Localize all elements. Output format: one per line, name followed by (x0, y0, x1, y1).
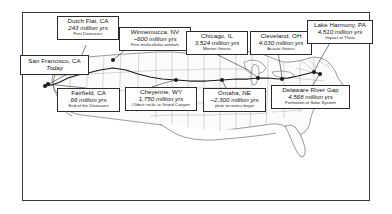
marker-dot-cleveland (280, 77, 284, 81)
callout-event: First Dinosaurs (61, 32, 115, 37)
callout-event: Acasta Gneiss (254, 47, 308, 52)
callout-age: Today (24, 65, 85, 72)
callout-event: Morton Gneiss (190, 47, 244, 52)
callout-event: Oldest rocks at Grand Canyon (129, 103, 193, 108)
marker-dot-cheyenne (174, 78, 178, 82)
map-figure: Dutch Flat, CA 243 million yrs First Din… (0, 0, 392, 214)
callout-lake-harmony[interactable]: Lake Harmony, PA 4,510 million yrs Impac… (307, 20, 373, 44)
callout-event: Formation of Solar System (275, 101, 346, 106)
callout-chicago[interactable]: Chicago, IL 3,524 million yrs Morton Gne… (186, 31, 248, 55)
callout-cleveland[interactable]: Cleveland, OH 4,030 million yrs Acasta G… (250, 31, 312, 55)
callout-delaware-river-gap[interactable]: Delaware River Gap 4,568 million yrs For… (271, 85, 350, 109)
callout-fairfield[interactable]: Fairfield, CA 66 million yrs End of the … (57, 88, 120, 112)
marker-dot-chicago (256, 76, 260, 80)
marker-dot-lake-harmony (312, 70, 316, 74)
callout-cheyenne[interactable]: Cheyenne, WY 1,750 million yrs Oldest ro… (125, 87, 197, 111)
callout-event: plate tectonics begin (207, 104, 262, 109)
callout-event: Impact of Theia (311, 36, 369, 41)
callout-winnemucca[interactable]: Winnemucca, NV ~600 million yrs First mu… (119, 27, 191, 51)
callout-event: End of the Dinosaurs (61, 104, 116, 109)
callout-dutch-flat[interactable]: Dutch Flat, CA 243 million yrs First Din… (57, 16, 119, 40)
marker-dot-winnemucca (111, 58, 115, 62)
callout-san-francisco[interactable]: San Francisco, CA Today (20, 55, 89, 75)
marker-dot-fairfield (46, 82, 50, 86)
marker-dot-delaware (318, 72, 322, 76)
callout-omaha[interactable]: Omaha, NE ~2,300 million yrs plate tecto… (203, 88, 266, 112)
callout-event: First multicellular animals (123, 43, 187, 48)
marker-dot-omaha (220, 78, 224, 82)
